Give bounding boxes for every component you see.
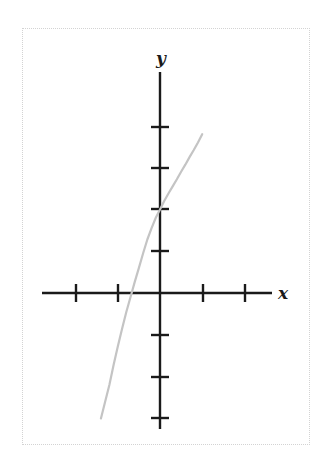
y-axis-label: y <box>155 48 167 68</box>
coordinate-plot: x y <box>0 0 330 467</box>
x-axis-label: x <box>277 283 289 303</box>
function-curve <box>101 134 202 418</box>
figure-canvas: x y <box>0 0 330 467</box>
